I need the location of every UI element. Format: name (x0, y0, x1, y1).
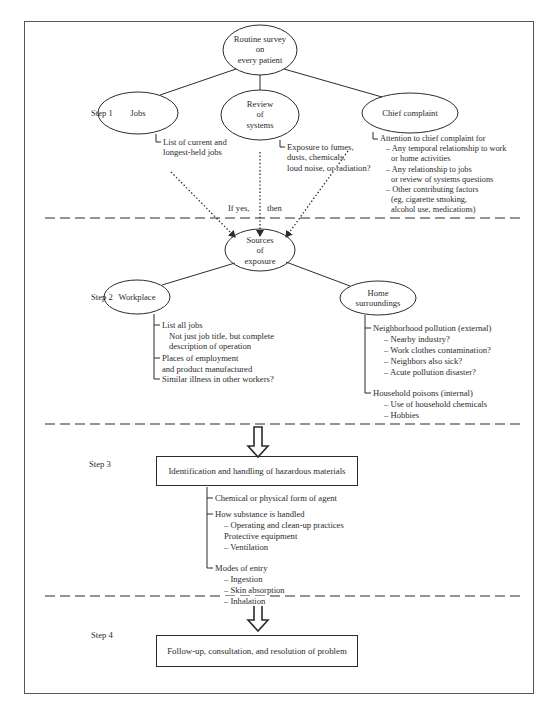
step3-detail-how-handled: How substance is handled (215, 509, 305, 519)
workplace-detail-product: and product manufactured (162, 364, 252, 374)
step-4-label: Step 4 (91, 630, 113, 640)
review-of-systems-label: Review of systems (226, 99, 294, 130)
step3-detail-chemical-form: Chemical or physical form of agent (215, 493, 337, 503)
home-detail-nearby-industry: – Nearby industry? (384, 334, 450, 344)
workplace-label: Workplace (104, 292, 170, 302)
home-detail-household-poisons: Household poisons (internal) (373, 388, 473, 398)
chief-complaint-label: Chief complaint (364, 108, 456, 118)
follow-up-box-label: Follow-up, consultation, and resolution … (157, 646, 357, 656)
routine-survey-label: Routine survey on every patient (222, 34, 298, 65)
workplace-detail-description: description of operation (169, 341, 251, 351)
step3-detail-operating: – Operating and clean-up practices (224, 520, 344, 530)
home-detail-work-clothes: – Work clothes contamination? (384, 345, 491, 355)
home-surroundings-label: Home surroundings (342, 288, 414, 309)
home-detail-acute-pollution: – Acute pollution disaster? (384, 367, 476, 377)
sources-of-exposure-label: Sources of exposure (228, 235, 292, 266)
step-3-label: Step 3 (89, 459, 111, 469)
chief-complaint-detail: Attention to chief complaint for – Any t… (380, 134, 507, 216)
arrow-down-step3 (248, 427, 268, 457)
home-detail-neighborhood: Neighborhood pollution (external) (373, 323, 491, 333)
step3-detail-skin-absorption: – Skin absorption (224, 585, 285, 595)
step3-detail-modes-of-entry: Modes of entry (215, 563, 268, 573)
step3-detail-protective: Protective equipment (224, 531, 297, 541)
if-yes-label: If yes, (228, 203, 249, 213)
review-detail: Exposure to fumes, dusts, chemicals, lou… (287, 142, 371, 173)
workplace-detail-places: Places of employment (162, 353, 238, 363)
step3-detail-ingestion: – Ingestion (224, 574, 262, 584)
home-detail-hobbies: – Hobbies (384, 410, 419, 420)
home-detail-household-chemicals: – Use of household chemicals (384, 399, 487, 409)
step3-detail-ventilation: – Ventilation (224, 542, 268, 552)
workplace-detail-similar-illness: Similar illness in other workers? (162, 374, 274, 384)
jobs-detail: List of current and longest-held jobs (163, 137, 227, 158)
workplace-detail-not-just-title: Not just job title, but complete (169, 331, 274, 341)
then-label: then (267, 203, 282, 213)
step3-detail-inhalation: – Inhalation (224, 596, 267, 606)
identification-box-label: Identification and handling of hazardous… (157, 466, 357, 476)
workplace-detail-list-all-jobs: List all jobs (162, 320, 203, 330)
jobs-label: Jobs (110, 108, 166, 118)
home-detail-neighbors-sick: – Neighbors also sick? (384, 356, 462, 366)
